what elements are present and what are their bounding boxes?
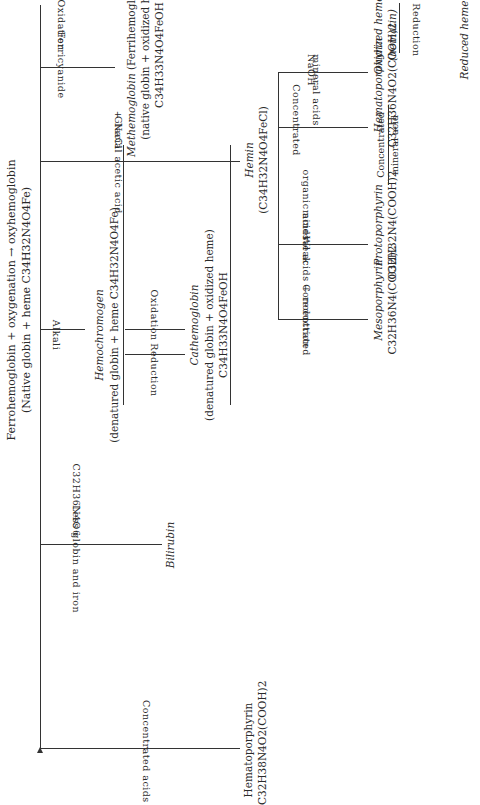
reagent-naoh: NaOH — [305, 45, 317, 95]
product-methemoglobin-detail: (native globin + oxidized heme) — [139, 0, 151, 145]
branch-line-methemoglobin — [40, 67, 115, 68]
product-cathemoglobin-formula: C34H33N4O4FeOH — [217, 255, 229, 395]
hemin-branch-mesoporphyrin — [278, 319, 368, 320]
product-protoporphyrin: Protoporphyrin — [372, 170, 384, 280]
product-hematin: (hematin) — [386, 0, 398, 70]
product-cathemoglobin-detail: (denatured globin + oxidized heme) — [203, 205, 215, 445]
hemin-subtrunk — [278, 72, 279, 320]
product-cathemoglobin: Cathemoglobin — [188, 265, 200, 385]
label-hematin-reduction: Reduction — [410, 0, 422, 65]
cathemoglobin-bracket — [230, 145, 231, 405]
product-hematoporphyrin-formula: C32H38N4O2(COOH)2 — [256, 695, 268, 805]
product-methemoglobin-formula: C34H33N4O4FeOH — [153, 0, 165, 125]
product-hemochromogen: Hemochromogen — [93, 275, 105, 395]
reagent-oxidation: Oxidation — [55, 0, 67, 60]
product-methemoglobin: Methemoglobin (Ferrihemoglobin) — [125, 0, 137, 165]
reagent-concentrated-acids: Concentrated acids — [140, 700, 152, 800]
reagent-hemato-a: Concentrated — [290, 75, 302, 165]
label-reduction: Reduction — [148, 340, 160, 400]
main-trunk-line — [40, 5, 41, 750]
title-line-1: Ferrohemoglobin + oxygenation → oxyhemog… — [6, 145, 18, 455]
product-bilirubin: Bilirubin — [164, 510, 176, 580]
label-oxidation: Oxidation — [148, 285, 160, 345]
product-hemochromogen-detail: (denatured globin + heme C34H32N4O4Fe) — [108, 195, 120, 455]
hematin-bracket — [399, 3, 400, 53]
reagent-bilirubin-formula: C32H36N4O6 — [70, 460, 82, 540]
hemin-branch-protoporphyrin — [278, 244, 368, 245]
branch-line-bilirubin — [40, 544, 162, 545]
product-oxidized-heme: Oxidized heme — [372, 0, 384, 80]
product-reduced-heme: Reduced heme — [458, 0, 470, 85]
branch-line-alkali — [40, 329, 85, 330]
title-line-2: (Native globin + heme C34H32N4O4Fe) — [21, 145, 33, 455]
reagent-alkali: Alkali — [50, 315, 62, 355]
reagent-organic-acids: organic acids — [300, 165, 312, 245]
hemin-branch-naoh — [278, 72, 368, 73]
branch-line-hemin — [40, 161, 240, 162]
reagent-nacl: + NaCl — [112, 100, 124, 160]
product-hemin: Hemin — [243, 130, 255, 190]
product-hemin-formula: (C34H32N4O4FeCl) — [257, 95, 269, 225]
product-hematoporphyrin-label: Hematoporphyrin — [242, 695, 254, 805]
